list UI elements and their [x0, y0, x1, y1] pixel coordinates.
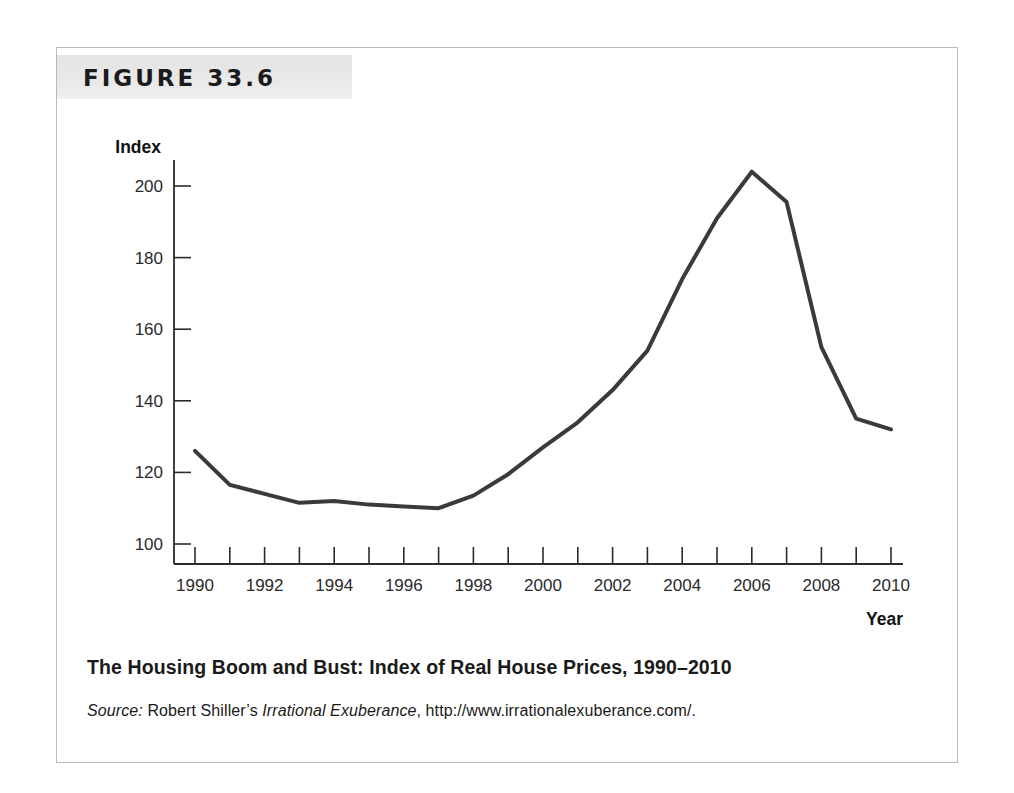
x-axis: 1990199219941996199820002002200420062008… — [174, 547, 910, 595]
x-axis-tick-label: 1998 — [454, 576, 492, 595]
source-work: Irrational Exuberance — [262, 702, 416, 719]
axis-titles: IndexYear — [115, 137, 903, 629]
x-axis-tick-label: 2000 — [524, 576, 562, 595]
source-url: http://www.irrationalexuberance.com/. — [426, 702, 697, 719]
data-series-line — [195, 172, 891, 509]
y-axis-tick-label: 200 — [135, 177, 163, 196]
y-axis-tick-label: 100 — [135, 535, 163, 554]
x-axis-tick-label: 1992 — [246, 576, 284, 595]
x-axis-tick-label: 2006 — [733, 576, 771, 595]
figure-caption: The Housing Boom and Bust: Index of Real… — [87, 656, 927, 679]
y-axis: 100120140160180200 — [135, 160, 191, 564]
x-axis-tick-label: 2008 — [802, 576, 840, 595]
source-comma: , — [417, 702, 422, 719]
x-axis-title: Year — [866, 609, 903, 629]
y-axis-tick-label: 180 — [135, 249, 163, 268]
y-axis-tick-label: 120 — [135, 463, 163, 482]
figure-source: Source: Robert Shiller’s Irrational Exub… — [87, 702, 927, 720]
caption-block: The Housing Boom and Bust: Index of Real… — [87, 656, 927, 720]
x-axis-tick-label: 2002 — [594, 576, 632, 595]
figure-container: FIGURE 33.6 100120140160180200 199019921… — [56, 47, 958, 763]
x-axis-tick-label: 1990 — [176, 576, 214, 595]
x-axis-tick-label: 1994 — [315, 576, 353, 595]
x-axis-tick-label: 1996 — [385, 576, 423, 595]
x-axis-tick-label: 2004 — [663, 576, 701, 595]
y-axis-title: Index — [115, 137, 161, 157]
y-axis-tick-label: 160 — [135, 320, 163, 339]
source-author: Robert Shiller’s — [147, 702, 257, 719]
y-axis-tick-label: 140 — [135, 392, 163, 411]
x-axis-tick-label: 2010 — [872, 576, 910, 595]
house-price-index-line — [195, 172, 891, 509]
source-prefix: Source: — [87, 702, 143, 719]
